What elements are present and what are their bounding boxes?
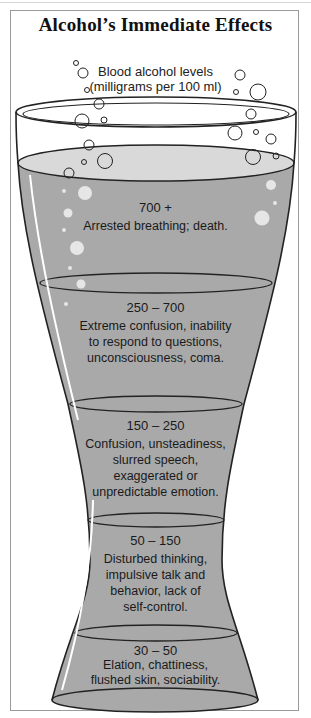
liquid-surface — [18, 145, 294, 181]
glass-rim-outer — [16, 97, 296, 127]
bubble — [234, 90, 239, 95]
glass-rim-inner — [23, 103, 289, 125]
level-effect-line: self-control. — [40, 599, 271, 615]
bubble — [85, 88, 90, 93]
bubble — [273, 201, 277, 205]
bubble — [74, 61, 79, 66]
bubble — [78, 68, 88, 78]
level-150-250: 150 – 250 Confusion, unsteadiness, slurr… — [40, 418, 271, 500]
level-effect-line: to respond to questions, — [40, 334, 271, 350]
bubble — [68, 266, 72, 270]
level-effect-line: flushed skin, sociability. — [40, 673, 271, 688]
bubble — [75, 114, 89, 128]
level-effect-line: Extreme confusion, inability — [40, 318, 271, 334]
level-effect-line: unconsciousness, coma. — [40, 350, 271, 366]
level-effect-line: Arrested breathing; death. — [40, 218, 271, 234]
level-effect-line: behavior, lack of — [40, 583, 271, 599]
bubble — [77, 280, 86, 289]
bubble — [62, 189, 66, 193]
level-effect-line: exaggerated or — [40, 468, 271, 484]
bubble — [228, 126, 242, 140]
bubble — [254, 130, 259, 135]
level-effect-line: Disturbed thinking, — [40, 551, 271, 567]
level-700-plus: 700 + Arrested breathing; death. — [40, 200, 271, 234]
level-effect-line: Elation, chattiness, — [40, 658, 271, 673]
bubble — [235, 70, 245, 80]
level-range: 30 – 50 — [40, 643, 271, 658]
bubble — [70, 241, 84, 255]
bubble — [266, 180, 276, 190]
level-range: 50 – 150 — [40, 533, 271, 549]
level-range: 700 + — [40, 200, 271, 216]
bubble — [78, 186, 92, 200]
level-effect-line: Confusion, unsteadiness, — [40, 436, 271, 452]
level-range: 150 – 250 — [40, 418, 271, 434]
bubble — [250, 84, 266, 100]
level-30-50: 30 – 50 Elation, chattiness, flushed ski… — [40, 643, 271, 688]
level-effect-line: slurred speech, — [40, 452, 271, 468]
level-50-150: 50 – 150 Disturbed thinking, impulsive t… — [40, 533, 271, 615]
level-range: 250 – 700 — [40, 300, 271, 316]
bubble — [101, 117, 107, 123]
level-effect-line: unpredictable emotion. — [40, 484, 271, 500]
level-250-700: 250 – 700 Extreme confusion, inability t… — [40, 300, 271, 366]
level-effect-line: impulsive talk and — [40, 567, 271, 583]
bubble — [246, 109, 256, 119]
bubble — [266, 134, 276, 144]
